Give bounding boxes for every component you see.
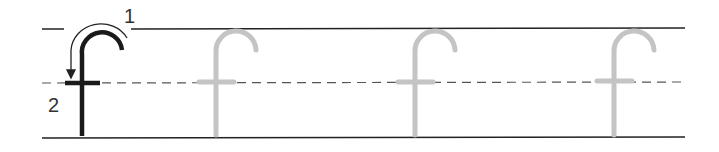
bottom-guide-line <box>42 137 685 138</box>
trace-letter-f-1 <box>199 31 256 135</box>
top-guide-line <box>131 28 685 29</box>
trace-letter-f-3 <box>597 31 654 135</box>
handwriting-practice-sheet <box>0 0 719 152</box>
model-letter-f <box>65 32 122 136</box>
stroke-label-2: 2 <box>48 95 59 115</box>
trace-letter-f-2 <box>398 31 455 135</box>
stroke-label-1: 1 <box>124 6 135 26</box>
dashed-midline <box>42 82 685 83</box>
